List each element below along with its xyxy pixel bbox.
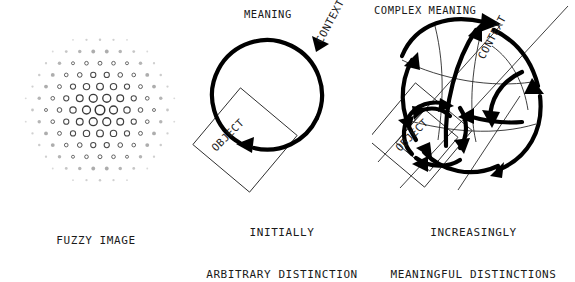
fuzzy-dot [95, 105, 105, 115]
fuzzy-dot [72, 39, 74, 41]
fuzzy-dot [138, 108, 143, 113]
fuzzy-dot [89, 94, 97, 102]
fuzzy-dot [103, 118, 111, 126]
fuzzy-dot [45, 62, 47, 64]
fuzzy-dot [118, 143, 123, 148]
fuzzy-dot [91, 167, 95, 171]
fuzzy-dot [85, 179, 87, 181]
fuzzy-dot [105, 167, 109, 171]
arrow-upper-right-head [524, 78, 544, 94]
fuzzy-dot [104, 72, 109, 77]
fuzzy-dot [71, 155, 74, 158]
panel-fuzzy-image: FUZZY IMAGE [0, 0, 192, 241]
fuzzy-dot [125, 62, 128, 65]
fuzzy-dot [72, 179, 74, 181]
fuzzy-dot [124, 107, 130, 113]
caption-complex-distinctions: INCREASINGLY MEANINGFUL DISTINCTIONS [372, 198, 575, 282]
fuzzy-dot [98, 155, 102, 159]
fuzzy-dot [152, 108, 155, 111]
meaning-arc-lower [254, 118, 317, 150]
fuzzy-dot [57, 108, 62, 113]
fuzzy-dot [139, 62, 142, 65]
fuzzy-dot [45, 156, 47, 158]
fuzzy-dot [38, 120, 41, 123]
fuzzy-dot [124, 131, 129, 136]
label-complex-meaning: COMPLEX MEANING [374, 4, 476, 16]
fuzzy-dot [146, 51, 148, 53]
fuzzy-dot [58, 131, 62, 135]
caption-line: ARBITRARY DISTINCTION [192, 268, 372, 282]
fuzzy-dot [52, 51, 54, 53]
fuzzy-dot [105, 50, 109, 54]
fuzzy-dot [110, 83, 116, 89]
fuzzy-dot [146, 168, 148, 170]
fuzzy-dot [64, 143, 68, 147]
fuzzy-dot [139, 155, 142, 158]
fuzzy-dot [145, 73, 149, 77]
arrow-center-ascend [446, 30, 476, 146]
fuzzy-dot [78, 167, 81, 170]
fuzzy-dot-lattice [25, 39, 175, 182]
fuzzy-dot [112, 155, 116, 159]
fuzzy-dot [103, 94, 111, 102]
fuzzy-dot [99, 39, 101, 41]
fuzzy-dot [38, 97, 41, 100]
fuzzy-dot [52, 168, 54, 170]
fuzzy-dot [117, 95, 124, 102]
fuzzy-dot [71, 62, 74, 65]
fuzzy-dot [99, 179, 101, 181]
fuzzy-dot [38, 74, 40, 76]
fuzzy-dot [132, 143, 136, 147]
fuzzy-dot [31, 132, 33, 134]
fuzzy-dot [97, 83, 104, 90]
fuzzy-dot [131, 96, 136, 101]
fuzzy-dot [126, 179, 128, 181]
fuzzy-dot [51, 96, 55, 100]
fuzzy-dot [132, 167, 135, 170]
partition-curve-c [402, 60, 532, 84]
caption-fuzzy-image: FUZZY IMAGE [0, 206, 192, 276]
fuzzy-dot [78, 50, 81, 53]
fuzzy-dot [89, 118, 97, 126]
panel-initial-distinction: MEANING CONTEXT OBJECT INITIALLY ARBITRA… [192, 0, 372, 241]
fuzzy-dot [31, 109, 34, 112]
fuzzy-dot [70, 107, 76, 113]
fuzzy-dot [145, 120, 149, 124]
fuzzy-dot [104, 142, 109, 147]
fuzzy-dot [25, 121, 27, 123]
fuzzy-dot [118, 73, 123, 78]
arrow-upper-right [494, 30, 538, 86]
fuzzy-dot [98, 61, 102, 65]
label-meaning: MEANING [244, 8, 292, 20]
fuzzy-dot [152, 131, 156, 135]
fuzzy-dot [83, 130, 89, 136]
fuzzy-dot [51, 73, 55, 77]
fuzzy-dot [85, 39, 87, 41]
caption-line: MEANINGFUL DISTINCTIONS [372, 268, 575, 282]
fuzzy-dot [160, 74, 162, 76]
fuzzy-dot [132, 50, 135, 53]
fuzzy-dot [64, 96, 69, 101]
fuzzy-dot [126, 39, 128, 41]
fuzzy-dot [91, 142, 96, 147]
fuzzy-dot [51, 143, 55, 147]
fuzzy-dot [58, 62, 61, 65]
fuzzy-dot [112, 39, 114, 41]
fuzzy-dot [166, 109, 169, 112]
fuzzy-dot [76, 95, 83, 102]
fuzzy-dot [77, 143, 82, 148]
arrow-bottom-left [424, 152, 498, 172]
fuzzy-dot [64, 73, 68, 77]
fuzzy-dot [31, 85, 33, 87]
fuzzy-dot [112, 61, 116, 65]
meaning-arrowhead-bottom [236, 137, 254, 153]
fuzzy-dot [38, 144, 40, 146]
fuzzy-dot [173, 121, 175, 123]
fuzzy-dot [153, 156, 155, 158]
fuzzy-dot [153, 62, 155, 64]
fuzzy-dot [77, 73, 82, 78]
fuzzy-dot [85, 61, 89, 65]
fuzzy-dot [58, 85, 62, 89]
fuzzy-dot [159, 97, 162, 100]
